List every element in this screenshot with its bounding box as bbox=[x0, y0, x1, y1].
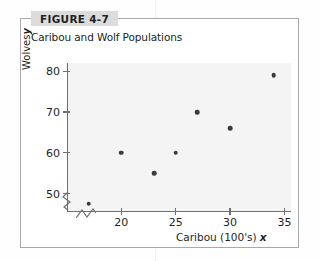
figure-number-tab: FIGURE 4-7 bbox=[31, 11, 118, 26]
y-axis-break-icon bbox=[61, 192, 75, 210]
data-point bbox=[195, 110, 200, 115]
x-tick-label: 25 bbox=[162, 216, 190, 229]
chart-title: Caribou and Wolf Populations bbox=[31, 31, 182, 43]
y-axis-variable: y bbox=[21, 28, 32, 35]
x-axis-variable: x bbox=[260, 231, 267, 243]
y-tick-label: 50 bbox=[38, 187, 60, 200]
plot-area bbox=[67, 63, 291, 212]
data-point bbox=[152, 171, 157, 176]
x-tick-label: 20 bbox=[107, 216, 135, 229]
figure-number-label: FIGURE 4-7 bbox=[40, 13, 109, 25]
y-tick-label: 80 bbox=[38, 65, 60, 78]
x-tick-label: 35 bbox=[270, 216, 298, 229]
x-axis-title: Caribou (100's)x bbox=[176, 231, 266, 243]
y-tick-label: 60 bbox=[38, 146, 60, 159]
x-axis-line bbox=[67, 211, 291, 212]
x-tick-mark bbox=[121, 208, 122, 215]
y-tick-mark bbox=[63, 152, 70, 153]
y-tick-mark bbox=[63, 71, 70, 72]
x-tick-label: 30 bbox=[216, 216, 244, 229]
y-axis-line bbox=[67, 63, 68, 212]
x-tick-mark bbox=[284, 208, 285, 215]
y-axis-title-text: Wolves bbox=[21, 35, 32, 70]
y-tick-mark bbox=[63, 111, 70, 112]
data-point bbox=[173, 151, 178, 156]
figure-root: FIGURE 4-7 Caribou and Wolf Populations … bbox=[0, 0, 319, 261]
data-point bbox=[228, 126, 233, 131]
data-point bbox=[271, 73, 276, 78]
x-tick-mark bbox=[175, 208, 176, 215]
y-tick-label: 70 bbox=[38, 105, 60, 118]
x-axis-break-icon bbox=[76, 205, 96, 218]
x-axis-title-text: Caribou (100's) bbox=[176, 231, 257, 243]
x-tick-mark bbox=[229, 208, 230, 215]
data-point bbox=[119, 151, 124, 156]
